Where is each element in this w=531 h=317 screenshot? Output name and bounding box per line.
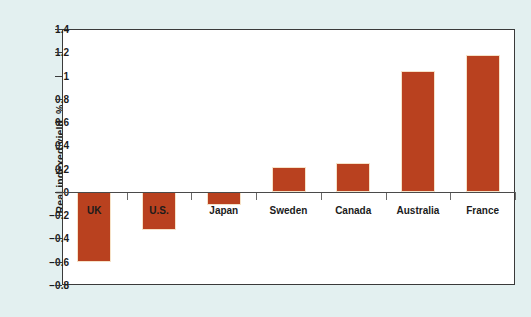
- y-tick-mark: [55, 169, 62, 170]
- y-tick-mark: [55, 99, 62, 100]
- y-tick-mark: [55, 29, 62, 30]
- x-tick-mark: [386, 192, 387, 200]
- zero-axis-line: [62, 192, 515, 193]
- y-tick-mark: [55, 215, 62, 216]
- x-tick-mark: [256, 192, 257, 200]
- chart-figure: Real indexed yield, % 1.41.210.80.60.40.…: [0, 0, 531, 317]
- y-tick-mark: [55, 192, 62, 193]
- y-tick-mark: [55, 285, 62, 286]
- bar-uk: [77, 192, 111, 262]
- x-tick-mark: [127, 192, 128, 200]
- category-label-us: U.S.: [149, 205, 168, 216]
- bar-australia: [401, 71, 435, 192]
- y-tick-mark: [55, 122, 62, 123]
- category-label-sweden: Sweden: [270, 205, 308, 216]
- plot-area: [62, 29, 515, 285]
- y-tick-mark: [55, 262, 62, 263]
- y-tick-mark: [55, 76, 62, 77]
- category-label-uk: UK: [87, 205, 101, 216]
- y-tick-mark: [55, 52, 62, 53]
- bar-canada: [336, 163, 370, 192]
- category-label-japan: Japan: [209, 205, 238, 216]
- category-label-australia: Australia: [397, 205, 440, 216]
- y-tick-label: 1: [63, 70, 69, 81]
- y-tick-mark: [55, 145, 62, 146]
- x-tick-mark: [321, 192, 322, 200]
- bar-japan: [207, 192, 241, 205]
- category-label-canada: Canada: [335, 205, 371, 216]
- bar-sweden: [272, 167, 306, 191]
- category-label-france: France: [466, 205, 499, 216]
- x-tick-mark: [515, 192, 516, 200]
- x-tick-mark: [450, 192, 451, 200]
- x-tick-mark: [62, 192, 63, 200]
- x-tick-mark: [191, 192, 192, 200]
- bar-france: [466, 55, 500, 192]
- y-tick-mark: [55, 238, 62, 239]
